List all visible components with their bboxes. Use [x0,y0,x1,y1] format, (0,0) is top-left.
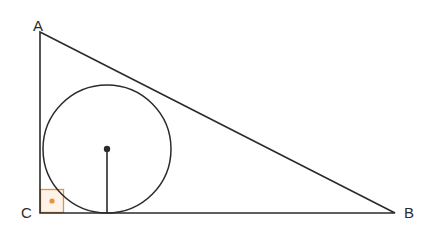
vertex-label-c: C [21,205,32,220]
geometry-canvas [0,0,435,241]
circle-center-point [104,146,110,152]
geometry-figure: A B C [0,0,435,241]
vertex-label-a: A [33,18,43,33]
triangle-shape [40,32,395,213]
right-angle-dot [49,198,54,203]
vertex-label-b: B [404,205,414,220]
